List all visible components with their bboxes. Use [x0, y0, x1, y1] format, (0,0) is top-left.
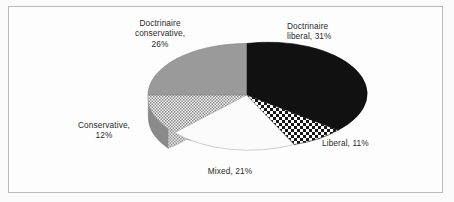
pie-label-doctrinaire-conservative: Doctrinaire conservative, 26% — [108, 18, 212, 49]
figure-canvas: Doctrinaire conservative, 26% Doctrinair… — [0, 0, 454, 202]
pie-label-mixed: Mixed, 21% — [182, 166, 278, 176]
pie-label-doctrinaire-liberal: Doctrinaire liberal, 31% — [287, 21, 397, 42]
slice-top-doctrinaire-conservative — [148, 44, 247, 96]
pie-label-liberal: Liberal, 11% — [322, 138, 422, 148]
pie-top-face — [148, 42, 367, 150]
pie-label-conservative: Conservative, 12% — [56, 120, 152, 141]
